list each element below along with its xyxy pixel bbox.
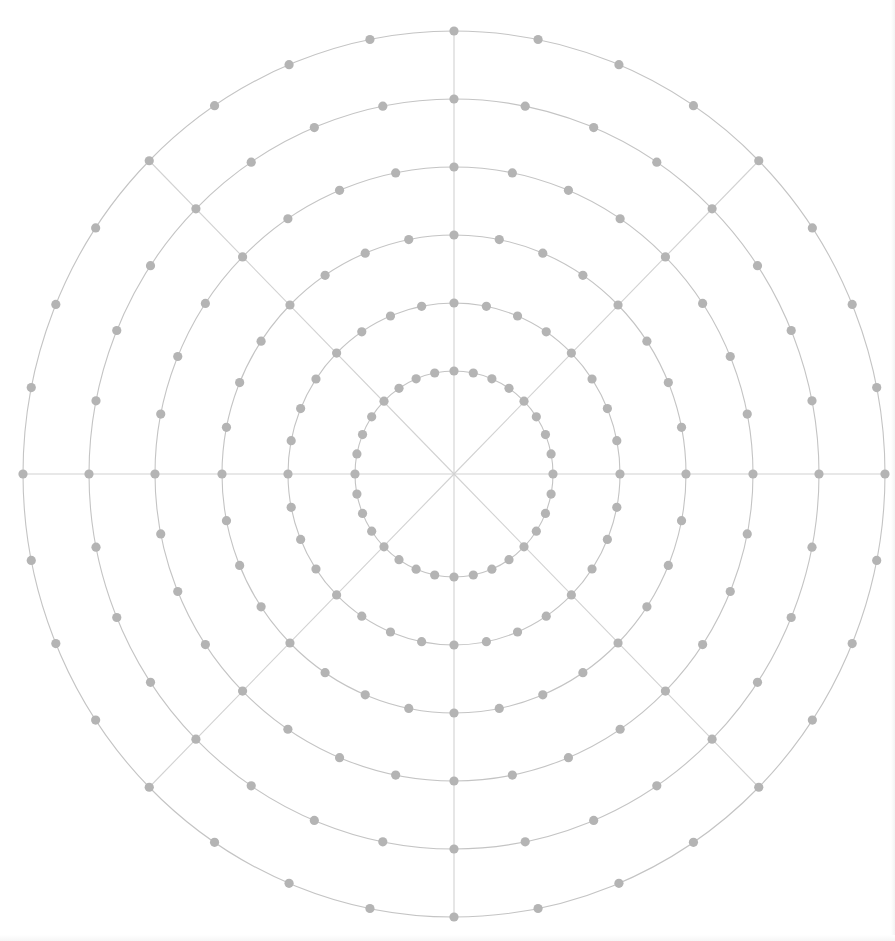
grid-dot: [726, 587, 735, 596]
grid-dot: [664, 378, 673, 387]
grid-dot: [848, 300, 857, 309]
grid-dot: [417, 637, 426, 646]
grid-dot: [257, 337, 266, 346]
grid-dot: [238, 686, 247, 695]
grid-dot: [652, 158, 661, 167]
grid-dot: [538, 249, 547, 258]
grid-dot: [449, 298, 458, 307]
grid-dot: [449, 572, 458, 581]
grid-dot: [542, 327, 551, 336]
grid-dot: [533, 35, 542, 44]
grid-dot: [417, 302, 426, 311]
grid-dot: [613, 638, 622, 647]
grid-dot: [787, 613, 796, 622]
grid-dot: [412, 374, 421, 383]
grid-dot: [469, 570, 478, 579]
grid-dot: [578, 271, 587, 280]
grid-dot: [391, 771, 400, 780]
grid-dot: [612, 503, 621, 512]
grid-dot: [378, 102, 387, 111]
grid-dot: [358, 430, 367, 439]
grid-dot: [642, 602, 651, 611]
grid-dot: [519, 397, 528, 406]
grid-dot: [91, 716, 100, 725]
grid-dot: [84, 469, 93, 478]
grid-dot: [807, 543, 816, 552]
grid-dot: [689, 101, 698, 110]
grid-dot: [589, 816, 598, 825]
grid-dot: [616, 214, 625, 223]
grid-dot: [698, 299, 707, 308]
grid-dot: [379, 542, 388, 551]
grid-dot: [285, 300, 294, 309]
grid-dot: [753, 678, 762, 687]
grid-dot: [513, 311, 522, 320]
grid-dot: [587, 374, 596, 383]
grid-dot: [449, 844, 458, 853]
grid-dot: [430, 570, 439, 579]
grid-dot: [513, 627, 522, 636]
grid-dot: [482, 302, 491, 311]
grid-dot: [642, 337, 651, 346]
grid-dot: [310, 816, 319, 825]
grid-dot: [91, 396, 100, 405]
grid-dot: [146, 678, 155, 687]
grid-dot: [880, 469, 889, 478]
grid-dot: [807, 396, 816, 405]
grid-dot: [532, 527, 541, 536]
grid-dot: [296, 404, 305, 413]
grid-dot: [541, 430, 550, 439]
grid-dot: [613, 300, 622, 309]
grid-dot: [677, 423, 686, 432]
grid-dot: [449, 94, 458, 103]
grid-dot: [210, 838, 219, 847]
grid-dot: [589, 123, 598, 132]
grid-dot: [361, 690, 370, 699]
grid-dot: [112, 613, 121, 622]
grid-dot: [112, 326, 121, 335]
grid-dot: [748, 469, 757, 478]
grid-dot: [495, 704, 504, 713]
grid-dot: [222, 423, 231, 432]
polar-grid-canvas: [0, 0, 895, 941]
grid-dot: [378, 837, 387, 846]
grid-dot: [287, 503, 296, 512]
grid-dot: [603, 404, 612, 413]
grid-dot: [191, 204, 200, 213]
grid-dot: [386, 627, 395, 636]
grid-dot: [449, 26, 458, 35]
grid-dot: [547, 449, 556, 458]
grid-dot: [332, 348, 341, 357]
grid-dot: [707, 204, 716, 213]
grid-dot: [482, 637, 491, 646]
grid-dot: [391, 168, 400, 177]
grid-dot: [612, 436, 621, 445]
grid-dot: [661, 686, 670, 695]
grid-dot: [808, 223, 817, 232]
grid-dot: [564, 186, 573, 195]
grid-dot: [848, 639, 857, 648]
grid-dot: [150, 469, 159, 478]
grid-dot: [173, 587, 182, 596]
grid-dot: [449, 162, 458, 171]
grid-dot: [412, 565, 421, 574]
grid-dot: [367, 412, 376, 421]
grid-dot: [332, 590, 341, 599]
grid-dot: [156, 529, 165, 538]
grid-dot: [284, 879, 293, 888]
grid-dot: [532, 412, 541, 421]
grid-dot: [283, 214, 292, 223]
grid-dot: [365, 35, 374, 44]
grid-dot: [508, 771, 517, 780]
grid-dot: [394, 384, 403, 393]
grid-dot: [615, 469, 624, 478]
grid-dot: [222, 516, 231, 525]
grid-dot: [487, 374, 496, 383]
grid-dot: [616, 725, 625, 734]
grid-dot: [430, 368, 439, 377]
grid-dot: [677, 516, 686, 525]
grid-dot: [743, 410, 752, 419]
grid-dot: [689, 838, 698, 847]
grid-dot: [449, 230, 458, 239]
grid-dot: [521, 837, 530, 846]
